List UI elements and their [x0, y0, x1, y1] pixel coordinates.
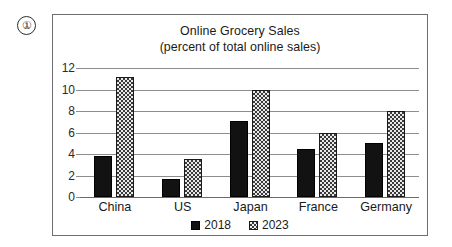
bar-group [94, 68, 134, 197]
bar [94, 156, 112, 197]
bar-group [365, 68, 405, 197]
y-tick-label: 2 [68, 169, 75, 183]
y-tick-label: 4 [68, 147, 75, 161]
y-tick-label: 12 [62, 61, 75, 75]
bar [387, 111, 405, 197]
y-tick-label: 8 [68, 104, 75, 118]
x-axis-label: US [174, 200, 192, 214]
axis-baseline [80, 197, 419, 198]
x-axis-label: Germany [360, 200, 412, 214]
legend-item: 2023 [249, 218, 289, 232]
question-number-marker: ① [17, 16, 36, 35]
bar [230, 121, 248, 197]
legend-item-label: 2023 [262, 218, 289, 232]
bar-group [297, 68, 337, 197]
y-tick-label: 0 [68, 190, 75, 204]
bar-group [230, 68, 270, 197]
x-axis-label: France [299, 200, 338, 214]
bar [252, 90, 270, 198]
bar-group [162, 68, 202, 197]
chart-title: Online Grocery Sales [53, 23, 427, 39]
x-axis-label: China [98, 200, 131, 214]
chart-subtitle: (percent of total online sales) [53, 39, 427, 55]
legend-item-label: 2018 [204, 218, 231, 232]
bar [116, 77, 134, 197]
legend-item: 2018 [191, 218, 231, 232]
bar [162, 179, 180, 197]
y-tick-label: 10 [62, 83, 75, 97]
x-axis-label: Japan [233, 200, 267, 214]
plot-area: 024681012 [80, 68, 419, 197]
bar [184, 159, 202, 197]
x-axis-labels: ChinaUSJapanFranceGermany [80, 200, 419, 220]
bar [319, 133, 337, 198]
bars-layer [80, 68, 419, 197]
solid-black-square-icon [191, 221, 200, 230]
bar [297, 149, 315, 197]
bar [365, 143, 383, 197]
checkered-square-icon [249, 221, 258, 230]
chart-legend: 2018 2023 [53, 218, 427, 232]
chart-figure-frame: Online Grocery Sales (percent of total o… [52, 14, 428, 236]
chart-title-block: Online Grocery Sales (percent of total o… [53, 23, 427, 55]
y-tick-mark [76, 197, 80, 198]
y-tick-label: 6 [68, 126, 75, 140]
